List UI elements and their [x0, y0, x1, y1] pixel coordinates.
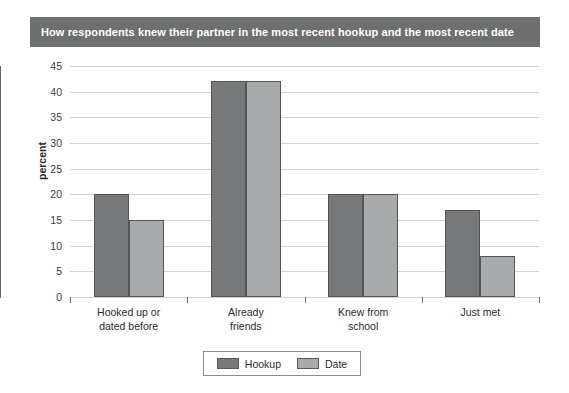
- bar-hookup-0: [94, 194, 129, 297]
- y-axis-tick-labels: 454035302520151050: [8, 0, 62, 393]
- x-axis-tick-mark: [187, 297, 188, 303]
- bar-date-1: [246, 81, 281, 297]
- chart-legend: HookupDate: [203, 351, 361, 376]
- y-axis-tick-label: 45: [12, 60, 62, 72]
- legend-entry-date: Date: [297, 358, 347, 370]
- x-axis-tick-label-line: Already: [187, 306, 304, 320]
- x-axis-tick-mark: [305, 297, 306, 303]
- bar-hookup-3: [445, 210, 480, 297]
- y-axis-tick-label: 30: [12, 137, 62, 149]
- chart-title: How respondents knew their partner in th…: [41, 26, 514, 38]
- bar-hookup-1: [211, 81, 246, 297]
- x-axis-tick-label-line: Just met: [422, 306, 539, 320]
- y-axis-tick-label: 20: [12, 188, 62, 200]
- y-axis-tick-label: 5: [12, 265, 62, 277]
- bar-hookup-2: [328, 194, 363, 297]
- y-axis-tick-label: 10: [12, 240, 62, 252]
- x-axis-tick-mark: [70, 297, 71, 303]
- x-axis-tick-mark: [422, 297, 423, 303]
- chart-figure: How respondents knew their partner in th…: [0, 0, 569, 393]
- x-axis-tick-label: Hooked up ordated before: [70, 306, 187, 333]
- legend-entry-hookup: Hookup: [217, 358, 281, 370]
- x-axis-tick-label-line: friends: [187, 320, 304, 334]
- y-axis-tick-label: 40: [12, 86, 62, 98]
- x-axis-tick-label-line: Knew from: [305, 306, 422, 320]
- x-axis-tick-label: Just met: [422, 306, 539, 320]
- y-axis-tick-label: 35: [12, 111, 62, 123]
- bars-layer: [70, 66, 539, 297]
- x-axis-tick-label-line: dated before: [70, 320, 187, 334]
- y-axis-tick-label: 25: [12, 163, 62, 175]
- bar-date-2: [363, 194, 398, 297]
- legend-label-hookup: Hookup: [245, 358, 281, 370]
- y-axis-tick-label: 15: [12, 214, 62, 226]
- x-axis-tick-label-line: Hooked up or: [70, 306, 187, 320]
- x-axis-tick-label: Alreadyfriends: [187, 306, 304, 333]
- x-axis-tick-label: Knew fromschool: [305, 306, 422, 333]
- legend-swatch-hookup: [217, 358, 239, 369]
- y-axis-line: [0, 66, 1, 298]
- bar-date-3: [480, 256, 515, 297]
- x-axis-tick-mark: [539, 297, 540, 303]
- bar-date-0: [129, 220, 164, 297]
- chart-title-banner: How respondents knew their partner in th…: [30, 17, 540, 47]
- y-axis-tick-label: 0: [12, 291, 62, 303]
- legend-label-date: Date: [325, 358, 347, 370]
- legend-swatch-date: [297, 358, 319, 369]
- x-axis-tick-label-line: school: [305, 320, 422, 334]
